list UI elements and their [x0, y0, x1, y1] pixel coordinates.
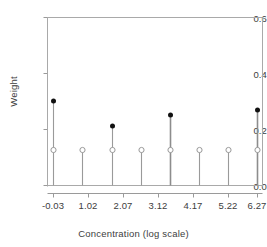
- open-circle-2: [80, 147, 85, 152]
- filled-circle-markers: [51, 99, 260, 129]
- stem-lines: [54, 101, 258, 186]
- filled-circle-2: [110, 124, 115, 129]
- filled-circle-1: [51, 99, 56, 104]
- x-tick-label-7: 6.27: [248, 200, 267, 211]
- open-circle-6: [197, 147, 202, 152]
- x-tick-label-5: 4.17: [184, 200, 203, 211]
- y-axis-ticks: [44, 18, 48, 186]
- open-circle-5: [168, 147, 173, 152]
- x-tick-label-1: -0.03: [42, 200, 64, 211]
- x-tick-label-4: 3.12: [149, 200, 168, 211]
- open-circle-7: [226, 147, 231, 152]
- open-circle-1: [51, 147, 56, 152]
- open-circle-markers: [51, 147, 260, 152]
- axis-frame: [48, 18, 263, 187]
- x-axis: [48, 194, 263, 198]
- x-axis-title: Concentration (log scale): [0, 228, 267, 239]
- open-circle-3: [110, 147, 115, 152]
- x-tick-label-6: 5.22: [219, 200, 238, 211]
- x-tick-label-2: 1.02: [79, 200, 98, 211]
- filled-circle-4: [255, 108, 260, 113]
- filled-circle-3: [168, 113, 173, 118]
- chart-figure: 0.6 0.4 0.2 0.0 Weight: [0, 0, 267, 247]
- open-circle-8: [255, 147, 260, 152]
- open-circle-4: [139, 147, 144, 152]
- x-tick-label-3: 2.07: [114, 200, 133, 211]
